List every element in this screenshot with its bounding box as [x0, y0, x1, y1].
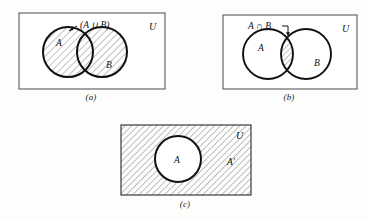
figure-a-caption: (a): [18, 92, 164, 102]
universe-label: U: [342, 23, 350, 34]
figure-a-union: (A ∪ B) U A B: [18, 12, 168, 94]
figure-b-intersection: A ∩ B U A B: [222, 14, 360, 94]
set-a-complement-label: A': [226, 157, 236, 167]
figure-c-canvas: U A A': [120, 124, 254, 198]
set-a-label: A: [257, 43, 264, 53]
universe-label: U: [236, 130, 244, 141]
universe-label: U: [149, 21, 157, 32]
union-expression-label: (A ∪ B): [80, 20, 110, 31]
figure-b-caption: (b): [222, 92, 356, 102]
intersection-expression-label: A ∩ B: [247, 21, 271, 31]
figure-c-caption: (c): [120, 199, 250, 209]
figure-a-canvas: (A ∪ B) U A B: [18, 12, 168, 94]
figure-b-canvas: A ∩ B U A B: [222, 14, 360, 94]
set-b-label: B: [314, 58, 320, 68]
set-a-label: A: [55, 38, 62, 48]
set-b-label: B: [106, 60, 112, 70]
venn-diagram-figure-page: (A ∪ B) U A B (a): [0, 0, 368, 220]
set-a-label: A: [173, 155, 180, 165]
figure-c-complement: U A A': [120, 124, 254, 198]
